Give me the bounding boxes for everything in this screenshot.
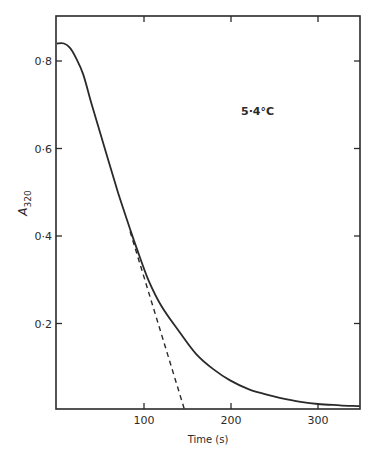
y-tick-label: 0·6 [35, 143, 53, 156]
chart: 1002003000·20·40·60·8 Time (s) A320 5·4°… [0, 0, 380, 455]
plot-border [56, 16, 360, 409]
x-axis-label: Time (s) [187, 434, 229, 445]
y-tick-label: 0·4 [35, 230, 53, 243]
x-tick-label: 100 [134, 414, 155, 427]
annotations: 5·4°C [241, 105, 274, 118]
y-tick-label: 0·2 [35, 318, 53, 331]
data-series [57, 43, 360, 411]
absorbance-curve [57, 43, 360, 406]
svg-text:A320: A320 [16, 190, 33, 217]
x-tick-label: 200 [221, 414, 242, 427]
y-axis-label-main: A [16, 207, 30, 216]
temperature-annotation: 5·4°C [241, 105, 274, 118]
x-tick-label: 300 [308, 414, 329, 427]
plot-frame [56, 16, 360, 409]
extrapolation-dashed-line [130, 232, 185, 411]
y-tick-label: 0·8 [35, 55, 53, 68]
y-axis-label-subscript: 320 [23, 190, 33, 207]
y-axis-label: A320 [16, 190, 33, 217]
